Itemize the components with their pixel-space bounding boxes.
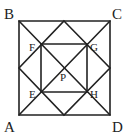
geometry-diagram: B C A D F G E H P	[0, 0, 130, 139]
label-b: B	[4, 6, 14, 22]
label-g: G	[90, 41, 98, 53]
label-f: F	[29, 41, 35, 53]
label-e: E	[29, 88, 36, 100]
label-c: C	[112, 6, 122, 22]
label-d: D	[112, 119, 123, 135]
label-p: P	[60, 71, 66, 83]
label-h: H	[90, 88, 98, 100]
label-a: A	[4, 119, 15, 135]
